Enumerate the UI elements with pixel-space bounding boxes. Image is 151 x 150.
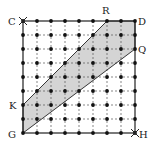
label-G: G [8, 129, 16, 140]
label-D: D [138, 16, 146, 27]
label-H: H [139, 129, 148, 140]
label-Q: Q [138, 44, 146, 55]
grid-diagram: C D Q R K G H [0, 0, 151, 150]
label-R: R [102, 5, 110, 16]
label-K: K [9, 100, 17, 111]
label-C: C [8, 16, 16, 27]
